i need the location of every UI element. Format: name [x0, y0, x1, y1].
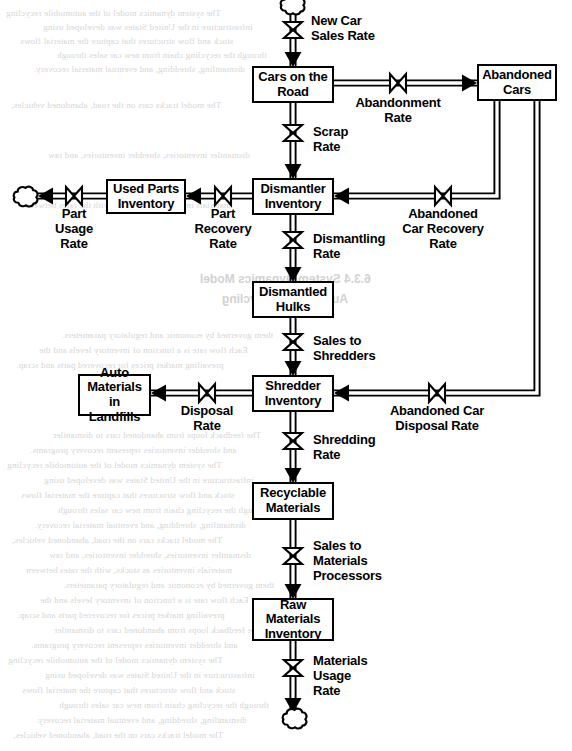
stock-label: Abandoned Cars	[480, 68, 554, 97]
valve-shredding_rate[interactable]	[284, 433, 302, 449]
flow-label-dismantling_rate: Dismantling Rate	[313, 231, 385, 261]
flow-label-sales_to_mat_processors: Sales to Materials Processors	[313, 538, 382, 583]
flow-label-abandoned_car_recovery_rate: Abandoned Car Recovery Rate	[363, 206, 523, 251]
arrow-new-car-sales	[285, 52, 302, 67]
cloud-sink_part_usage	[14, 187, 38, 207]
flow-label-scrap_rate: Scrap Rate	[313, 124, 348, 154]
stock-dismantled_hulks[interactable]: Dismantled Hulks	[252, 281, 334, 318]
flow-label-part_usage_rate: Part Usage Rate	[0, 206, 154, 251]
flow-label-shredding_rate: Shredding Rate	[313, 432, 375, 462]
cloud-sink_materials_usage	[283, 709, 307, 729]
arrow-scrap	[285, 164, 302, 179]
valve-abandoned_car_disposal_rate[interactable]	[429, 384, 445, 402]
stock-label: Dismantled Hulks	[257, 285, 329, 314]
stock-label: Raw Materials Inventory	[263, 598, 324, 642]
arrow-abandoned-recovery	[334, 188, 349, 205]
flow-label-new_car_sales_rate: New Car Sales Rate	[311, 13, 375, 43]
valve-materials_usage_rate[interactable]	[284, 660, 302, 676]
valve-abandoned_car_recovery_rate[interactable]	[435, 187, 451, 205]
arrow-sales-shredders	[285, 361, 302, 376]
flow-label-sales_to_shredders: Sales to Shredders	[313, 333, 376, 363]
arrow-disposal	[151, 385, 166, 402]
stock-label: Recyclable Materials	[258, 486, 328, 515]
flow-label-disposal_rate: Disposal Rate	[127, 403, 287, 433]
valve-scrap_rate[interactable]	[284, 125, 302, 141]
stock-recyclable_mat[interactable]: Recyclable Materials	[252, 482, 334, 520]
stock-abandoned_cars[interactable]: Abandoned Cars	[477, 64, 557, 101]
stock-raw_mat_inv[interactable]: Raw Materials Inventory	[252, 598, 334, 641]
valve-part_usage_rate[interactable]	[66, 187, 82, 205]
arrow-abandonment	[462, 75, 477, 92]
valve-sales_to_shredders[interactable]	[284, 334, 302, 350]
flow-label-abandonment_rate: Abandonment Rate	[318, 95, 478, 125]
flow-label-materials_usage_rate: Materials Usage Rate	[313, 653, 368, 698]
valve-new_car_sales_rate[interactable]	[284, 22, 302, 38]
valve-sales_to_mat_processors[interactable]	[284, 548, 302, 564]
flow-label-part_recovery_rate: Part Recovery Rate	[143, 206, 303, 251]
arrow-abandoned-disposal	[334, 385, 349, 402]
arrow-part-usage	[38, 188, 53, 205]
diagram-canvas: 6.3.4 System Dynamics ModelAutomobile Re…	[0, 0, 572, 751]
flow-label-abandoned_car_disposal_rate: Abandoned Car Disposal Rate	[357, 403, 517, 433]
arrow-dismantling	[285, 267, 302, 282]
arrow-part-recovery	[186, 188, 201, 205]
arrow-shredding	[285, 468, 302, 483]
cloud-source_new_cars	[281, 0, 305, 14]
valve-abandonment_rate[interactable]	[390, 74, 406, 92]
valve-disposal_rate[interactable]	[199, 384, 215, 402]
valve-part_recovery_rate[interactable]	[215, 187, 231, 205]
